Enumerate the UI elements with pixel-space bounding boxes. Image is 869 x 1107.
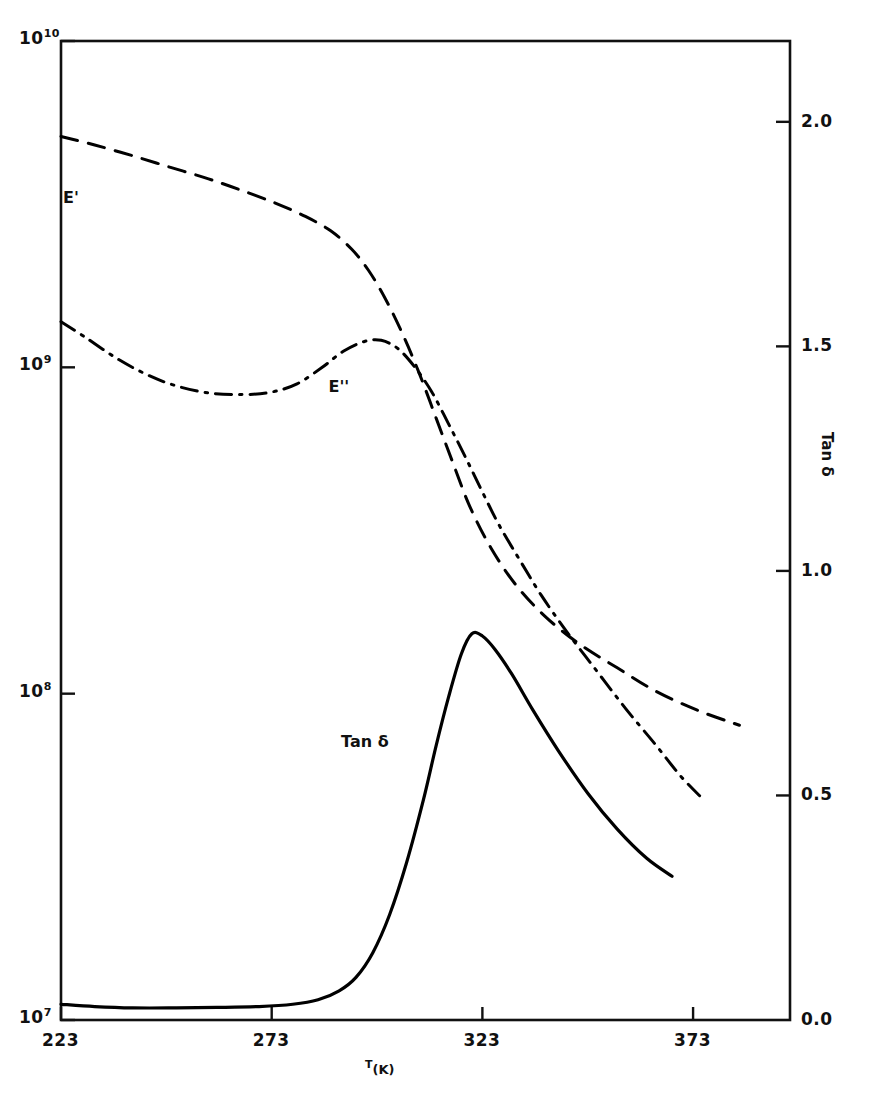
curve-label-e-prime: E' bbox=[63, 188, 79, 207]
left-tick-mantissa: 10 bbox=[19, 681, 44, 701]
curve-tan-delta bbox=[61, 632, 672, 1008]
x-tick-label-323: 323 bbox=[463, 1030, 500, 1050]
x-tick-label-373: 373 bbox=[674, 1030, 711, 1050]
curve-e-double-prime bbox=[61, 322, 702, 798]
plot-canvas bbox=[0, 0, 869, 1107]
x-tick-label-273: 273 bbox=[253, 1030, 290, 1050]
x-axis-title-unit: (K) bbox=[373, 1062, 395, 1077]
left-tick-label-1e8: 108 bbox=[19, 681, 52, 701]
right-tick-label-0-0: 0.0 bbox=[801, 1009, 833, 1029]
x-tick-label-223: 223 bbox=[42, 1030, 79, 1050]
right-axis-title: Tan δ bbox=[818, 432, 836, 477]
right-tick-label-0-5: 0.5 bbox=[801, 784, 833, 804]
x-axis-title-symbol: T bbox=[365, 1058, 373, 1071]
left-tick-label-1e7: 107 bbox=[19, 1007, 52, 1027]
left-tick-exponent: 8 bbox=[44, 680, 52, 693]
plot-frame bbox=[61, 41, 790, 1020]
left-tick-label-1e9: 109 bbox=[19, 354, 52, 374]
curve-label-e-double-prime: E'' bbox=[328, 377, 349, 396]
left-tick-label-1e10: 1010 bbox=[19, 28, 60, 48]
curve-e-prime bbox=[61, 136, 739, 725]
left-tick-mantissa: 10 bbox=[19, 1007, 44, 1027]
data-curves bbox=[61, 136, 739, 1008]
right-axis-ticks bbox=[776, 122, 790, 796]
left-tick-mantissa: 10 bbox=[19, 354, 44, 374]
right-tick-label-1-5: 1.5 bbox=[801, 335, 833, 355]
right-tick-label-1-0: 1.0 bbox=[801, 560, 833, 580]
left-tick-mantissa: 10 bbox=[19, 28, 44, 48]
curve-label-tan-delta: Tan δ bbox=[341, 732, 389, 751]
dma-thermogram-figure: 1010 109 108 107 2.0 1.5 1.0 0.5 0.0 223… bbox=[0, 0, 869, 1107]
left-tick-exponent: 10 bbox=[44, 27, 60, 40]
left-tick-exponent: 7 bbox=[44, 1006, 52, 1019]
right-tick-label-2-0: 2.0 bbox=[801, 111, 833, 131]
left-tick-exponent: 9 bbox=[44, 354, 52, 367]
x-axis-title: T(K) bbox=[365, 1058, 394, 1078]
